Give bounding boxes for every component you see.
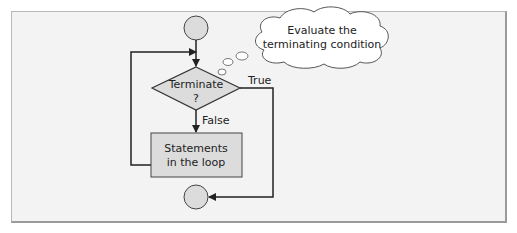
- body-label-line1: Statements: [164, 142, 228, 155]
- start-node: [184, 16, 208, 40]
- callout-text-line2: terminating condition: [263, 38, 382, 51]
- edge-label-false: False: [202, 114, 230, 127]
- thought-bubble-small: [218, 69, 226, 75]
- body-label-line2: in the loop: [167, 156, 226, 169]
- decision-label-line2: ?: [193, 92, 199, 105]
- thought-bubble-large: [236, 52, 248, 60]
- thought-bubble-medium: [223, 59, 233, 66]
- edge-label-true: True: [247, 74, 272, 87]
- end-node: [184, 185, 208, 209]
- flowchart: Terminate ? False Statements in the loop…: [0, 0, 517, 233]
- callout-text-line1: Evaluate the: [287, 24, 357, 37]
- body-node: [151, 133, 242, 177]
- decision-label-line1: Terminate: [168, 78, 224, 91]
